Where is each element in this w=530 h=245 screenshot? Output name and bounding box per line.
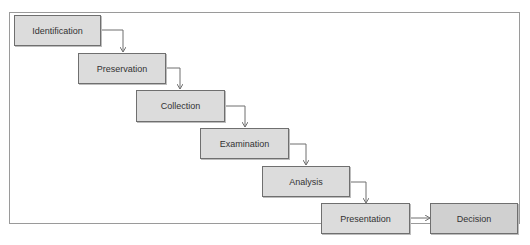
node-preservation: Preservation [78,53,166,84]
node-collection: Collection [136,90,225,122]
node-label: Examination [220,139,270,149]
node-label: Identification [32,26,83,36]
arrow-identification-preservation [101,30,123,52]
node-examination: Examination [200,128,289,159]
node-label: Decision [457,214,492,224]
node-analysis: Analysis [262,166,350,197]
node-label: Collection [161,101,201,111]
arrow-analysis-presentation [350,182,366,203]
arrow-preservation-collection [166,68,180,89]
node-identification: Identification [14,15,101,46]
node-label: Analysis [289,177,323,187]
node-label: Preservation [97,64,148,74]
arrow-collection-examination [225,106,245,127]
node-decision: Decision [430,203,518,234]
node-presentation: Presentation [321,203,410,234]
arrow-examination-analysis [289,144,306,165]
node-label: Presentation [340,214,391,224]
